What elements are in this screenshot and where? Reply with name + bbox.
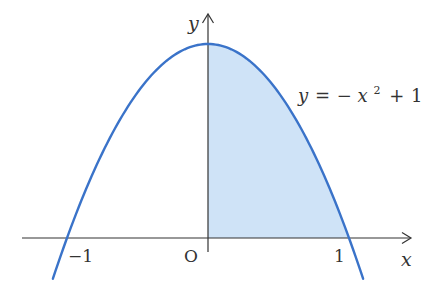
x-axis-label: x (401, 248, 412, 270)
equation-minus: − (337, 85, 352, 106)
parabola-figure: y x −1 O 1 y = − x 2 + 1 (0, 0, 432, 298)
equation-label: y = − x 2 + 1 (297, 77, 422, 106)
equation-plus: + (389, 85, 404, 106)
tick-label-one: 1 (334, 246, 345, 266)
equation-exponent: 2 (373, 84, 380, 97)
equation-lhs: y (297, 85, 309, 106)
equation-equals: = (315, 85, 330, 106)
equation-var: x (358, 85, 368, 106)
origin-label: O (184, 246, 198, 266)
shaded-area (208, 44, 349, 238)
tick-label-neg-one: −1 (68, 246, 93, 266)
y-axis-label: y (187, 12, 199, 34)
equation-const: 1 (411, 85, 422, 106)
